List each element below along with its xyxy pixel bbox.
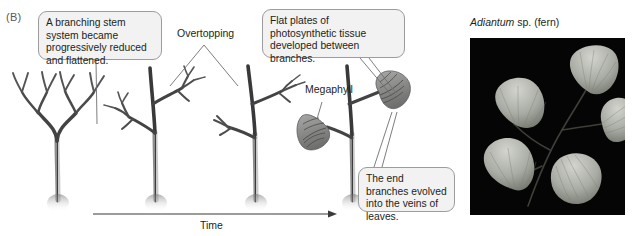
stage-1-plant	[13, 72, 104, 212]
megaphyll-leaf-left	[297, 115, 330, 150]
photo-caption-genus: Adiantum	[470, 16, 514, 28]
label-megaphyll: Megaphyll	[305, 83, 353, 95]
overtopping-leader	[170, 45, 238, 86]
panel-label: (B)	[6, 11, 22, 23]
leader-stem-reduction	[96, 60, 97, 124]
photo-caption-rest: sp. (fern)	[514, 16, 559, 28]
fern-photograph	[470, 38, 625, 215]
stage-2-plant	[104, 66, 205, 212]
photo-caption: Adiantum sp. (fern)	[470, 16, 559, 28]
axis-label-time: Time	[200, 219, 223, 231]
callout-stem-reduction: A branching stem system became progressi…	[38, 11, 162, 60]
stage-3-plant	[214, 66, 305, 212]
megaphyll-leader	[317, 102, 322, 119]
fern-photograph-content	[470, 38, 625, 215]
figure-panel-b: (B) A branching stem system became progr…	[0, 0, 633, 236]
callout-flat-plates: Flat plates of photosynthetic tissue dev…	[262, 9, 405, 58]
callout-end-branches: The end branches evolved into the veins …	[358, 167, 455, 212]
time-axis	[93, 211, 337, 218]
label-overtopping: Overtopping	[177, 27, 234, 39]
